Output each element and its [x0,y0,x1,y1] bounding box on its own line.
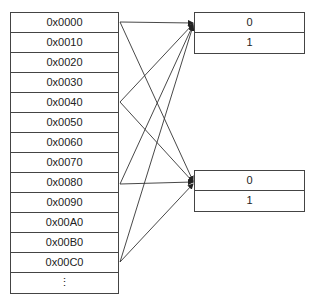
address-row: 0x0070 [11,153,118,173]
address-row: 0x0020 [11,53,118,73]
set-row: 1 [195,191,304,211]
address-row: 0x0080 [11,173,118,193]
set-box-1: 0 1 [194,170,305,212]
address-row: 0x00B0 [11,233,118,253]
set-box-0: 0 1 [194,12,305,54]
arrow-0x00C0-to-set1 [120,184,193,262]
address-row: 0x0030 [11,73,118,93]
vertical-ellipsis-icon: ⋮ [59,276,70,288]
address-row: 0x0090 [11,193,118,213]
set-row: 0 [195,13,304,33]
set-row: 0 [195,171,304,191]
arrow-0x0080-to-set0 [120,25,193,184]
address-row: 0x0060 [11,133,118,153]
address-row: 0x00A0 [11,213,118,233]
address-row: 0x0010 [11,33,118,53]
arrow-0x0080-to-set1 [120,182,193,184]
address-table: 0x0000 0x0010 0x0020 0x0030 0x0040 0x005… [10,12,119,294]
address-row: 0x0050 [11,113,118,133]
arrow-0x0040-to-set1 [120,102,193,182]
address-row: 0x0000 [11,13,118,33]
address-row: 0x0040 [11,93,118,113]
ellipsis-row: ⋮ [11,273,118,293]
address-row: 0x00C0 [11,253,118,273]
arrow-0x0000-to-set0 [120,22,193,23]
set-row: 1 [195,33,304,53]
arrow-0x0040-to-set0 [120,24,193,102]
arrow-0x00C0-to-set0 [120,26,193,262]
arrow-0x0000-to-set1 [120,22,193,181]
